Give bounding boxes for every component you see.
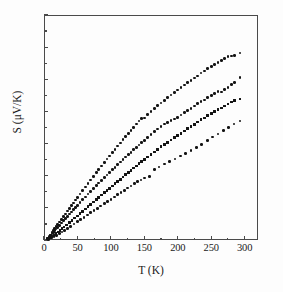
x-axis-title: T (K) <box>44 264 258 276</box>
y-tick-mark <box>44 14 48 15</box>
y-minor-tick-mark <box>44 63 47 64</box>
x-minor-tick-mark <box>127 238 128 241</box>
x-tick-label: 200 <box>170 243 185 254</box>
x-tick-label: 300 <box>237 243 252 254</box>
x-tick-mark <box>177 236 178 240</box>
y-minor-tick-mark <box>44 191 47 192</box>
x-axis-tick-labels: 050100150200250300 <box>0 243 283 259</box>
plot-frame <box>44 15 258 240</box>
y-minor-tick-mark <box>44 159 47 160</box>
y-minor-tick-mark <box>44 127 47 128</box>
x-tick-label: 250 <box>204 243 219 254</box>
x-tick-mark <box>211 236 212 240</box>
x-tick-label: 100 <box>103 243 118 254</box>
y-tick-mark <box>44 79 48 80</box>
x-minor-tick-mark <box>160 238 161 241</box>
y-tick-mark <box>44 143 48 144</box>
y-tick-mark <box>44 175 48 176</box>
x-tick-label: 150 <box>137 243 152 254</box>
x-tick-label: 50 <box>72 243 82 254</box>
x-tick-label: 0 <box>41 243 46 254</box>
x-tick-mark <box>43 236 44 240</box>
y-tick-mark <box>44 111 48 112</box>
y-minor-tick-mark <box>44 223 47 224</box>
y-minor-tick-mark <box>44 30 47 31</box>
x-minor-tick-mark <box>94 238 95 241</box>
y-tick-mark <box>44 47 48 48</box>
thermopower-scatter-figure: 02468101214 050100150200250300 S (μV/K) … <box>0 0 283 292</box>
x-tick-mark <box>110 236 111 240</box>
x-tick-mark <box>244 236 245 240</box>
y-minor-tick-mark <box>44 95 47 96</box>
x-minor-tick-mark <box>227 238 228 241</box>
x-minor-tick-mark <box>60 238 61 241</box>
y-tick-mark <box>44 239 48 240</box>
x-minor-tick-mark <box>194 238 195 241</box>
y-axis-title: S (μV/K) <box>11 69 23 155</box>
y-tick-mark <box>44 207 48 208</box>
x-tick-mark <box>77 236 78 240</box>
x-tick-mark <box>144 236 145 240</box>
